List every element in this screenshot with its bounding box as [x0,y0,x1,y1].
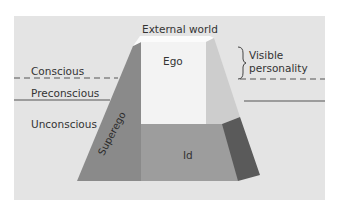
unconscious-label: Unconscious [31,119,97,130]
visible-label: Visible [249,50,283,61]
ego-label: Ego [163,56,183,67]
id-label: Id [183,150,193,161]
superego-face [77,42,141,181]
personality-label: personality [249,63,308,74]
right-face-upper [206,38,240,124]
preconscious-label: Preconscious [31,88,99,99]
conscious-label: Conscious [31,66,84,77]
visible-personality-brace-icon [238,47,246,79]
id-face [141,124,206,181]
external-world-label: External world [142,24,218,35]
